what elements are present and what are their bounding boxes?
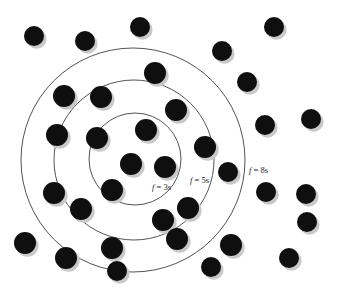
node-dot [130,17,150,37]
node-dot [218,162,238,182]
node-dot [135,119,157,141]
node-dot [212,41,232,61]
scatter-plot-svg: f = 3sf = 5sf = 8s [0,0,342,292]
node-dot [46,124,68,146]
node-dot [144,62,166,84]
label-f3: f = 3s [152,182,172,192]
node-dot [237,72,257,92]
node-dot [86,127,108,149]
node-dot [255,115,275,135]
node-dot [201,257,221,277]
node-dot [256,182,276,202]
node-dot [70,198,92,220]
node-dot [154,156,176,178]
node-dot [101,237,123,259]
node-dot [75,31,95,51]
node-dot [165,99,187,121]
node-dot [120,153,142,175]
node-dot [177,197,199,219]
node-dot [166,228,188,250]
node-dot [296,184,316,204]
node-dot [24,26,44,46]
node-dot [107,261,127,281]
node-dot [279,248,299,268]
node-group [14,17,324,284]
label-f8: f = 8s [249,165,269,175]
node-dot [264,17,284,37]
node-dot [152,209,174,231]
node-dot [90,86,112,108]
label-f5-value: = 5s [192,175,209,185]
node-dot [220,234,242,256]
node-dot [297,212,317,232]
label-f8-value: = 8s [251,165,268,175]
label-f5: f = 5s [190,175,210,185]
label-f3-value: = 3s [154,182,171,192]
node-dot [101,179,123,201]
node-dot [43,182,65,204]
node-dot [55,247,77,269]
node-dot [14,232,36,254]
node-dot [53,85,75,107]
node-dot [194,136,216,158]
figure-canvas: f = 3sf = 5sf = 8s [0,0,342,292]
node-dot [301,109,321,129]
